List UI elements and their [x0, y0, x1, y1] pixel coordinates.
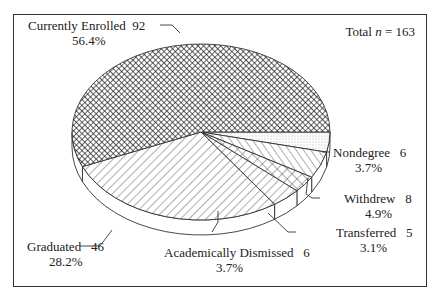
label-withdrew: Withdrew 8 4.9%: [344, 191, 412, 221]
label-academically-dismissed: Academically Dismissed 6 3.7%: [164, 245, 310, 275]
label-nondegree: Nondegree 6 3.7%: [333, 145, 406, 175]
label-graduated: Graduated 46 28.2%: [27, 239, 104, 269]
label-currently-enrolled: Currently Enrolled 92 56.4%: [28, 18, 145, 48]
label-transferred: Transferred 5 3.1%: [336, 225, 412, 255]
total-n-annotation: Total n = 163: [345, 24, 415, 40]
leader-enrolled: [160, 25, 180, 33]
